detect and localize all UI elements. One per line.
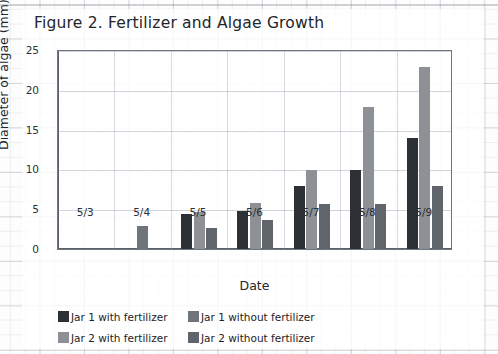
legend-item: Jar 1 without fertilizer (188, 306, 306, 327)
legend-swatch-icon (188, 332, 199, 343)
x-axis-label: Date (57, 278, 452, 293)
y-tick-label: 10 (0, 163, 39, 175)
legend-item: Jar 1 with fertilizer (58, 306, 176, 327)
bar (419, 67, 430, 249)
bar (181, 214, 192, 249)
bar-group (340, 51, 396, 249)
x-tick-label: 5/9 (384, 206, 464, 218)
legend-label: Jar 1 without fertilizer (201, 311, 315, 323)
y-tick-label: 20 (0, 84, 39, 96)
bar (137, 226, 148, 249)
legend-label: Jar 2 with fertilizer (71, 332, 167, 344)
bar (206, 228, 217, 249)
legend-swatch-icon (188, 311, 199, 322)
chart-title: Figure 2. Fertilizer and Algae Growth (34, 14, 324, 32)
chart-legend: Jar 1 with fertilizerJar 1 without ferti… (58, 306, 388, 348)
bar-group (397, 51, 453, 249)
y-tick-label: 0 (0, 243, 39, 255)
y-tick-label: 25 (0, 44, 39, 56)
legend-swatch-icon (58, 311, 69, 322)
graph-paper-page: Figure 2. Fertilizer and Algae Growth Di… (0, 0, 498, 354)
bar-group (114, 51, 170, 249)
bar-group (284, 51, 340, 249)
bar-group (58, 51, 114, 249)
y-tick-label: 5 (0, 203, 39, 215)
y-tick-label: 15 (0, 124, 39, 136)
bar-group (171, 51, 227, 249)
bar (363, 107, 374, 249)
bar (262, 220, 273, 249)
bar (407, 138, 418, 249)
legend-label: Jar 2 without fertilizer (201, 332, 315, 344)
legend-label: Jar 1 with fertilizer (71, 311, 167, 323)
legend-item: Jar 2 with fertilizer (58, 327, 176, 348)
legend-swatch-icon (58, 332, 69, 343)
legend-item: Jar 2 without fertilizer (188, 327, 306, 348)
bar-group (227, 51, 283, 249)
plot-area (57, 50, 452, 250)
